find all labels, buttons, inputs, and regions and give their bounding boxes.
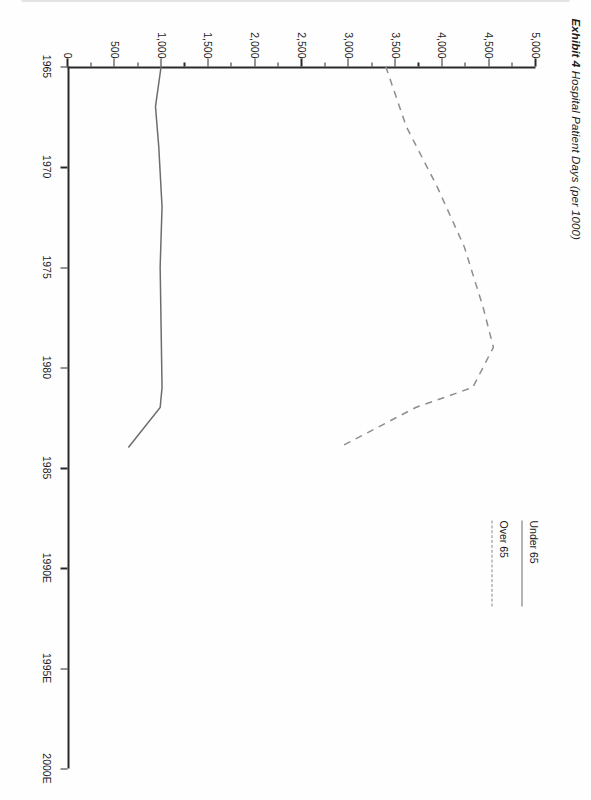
- y-tick-1000: [160, 58, 161, 66]
- x-tick-2000E: [60, 768, 67, 769]
- x-tick-1970: [60, 166, 67, 167]
- y-tick-1500: [207, 58, 208, 66]
- y-tick-2250: [277, 62, 278, 67]
- y-tick-label-3,500: 3,500: [389, 32, 401, 58]
- page-title: Exhibit 4 Hospital Patient Days (per 100…: [569, 18, 581, 240]
- x-tick-label-2000E: 2000E: [40, 753, 52, 783]
- y-tick-label-0: 0: [61, 52, 73, 58]
- series-lines: [67, 66, 535, 768]
- y-tick-label-4,500: 4,500: [482, 32, 494, 58]
- x-tick-1980: [60, 367, 67, 368]
- x-tick-1990E: [60, 567, 67, 568]
- y-tick-500: [113, 58, 114, 66]
- y-tick-3000: [347, 58, 348, 66]
- x-tick-label-1995E: 1995E: [40, 653, 52, 683]
- y-tick-3250: [371, 62, 372, 67]
- page-edge-rule: [21, 0, 569, 1]
- scanned-page: Exhibit 4 Hospital Patient Days (per 100…: [0, 0, 591, 800]
- x-tick-label-1980: 1980: [40, 355, 52, 378]
- plot-area: 196519701975198019851990E1995E2000E 0500…: [67, 66, 535, 768]
- y-tick-label-500: 500: [108, 40, 120, 58]
- x-tick-label-1975: 1975: [40, 255, 52, 278]
- y-tick-4000: [441, 58, 442, 66]
- y-tick-3500: [394, 58, 395, 66]
- y-tick-3750: [417, 62, 418, 67]
- x-tick-label-1965: 1965: [40, 54, 52, 77]
- chart-stage: Exhibit 4 Hospital Patient Days (per 100…: [0, 0, 591, 800]
- x-tick-1985: [60, 467, 67, 468]
- y-tick-label-1,500: 1,500: [201, 32, 213, 58]
- y-tick-label-2,500: 2,500: [295, 32, 307, 58]
- x-tick-1975: [60, 267, 67, 268]
- y-tick-250: [90, 62, 91, 67]
- y-tick-2000: [254, 58, 255, 66]
- y-tick-label-1,000: 1,000: [155, 32, 167, 58]
- y-tick-4500: [488, 58, 489, 66]
- y-tick-2500: [300, 58, 301, 66]
- x-tick-label-1985: 1985: [40, 455, 52, 478]
- y-tick-4750: [511, 62, 512, 67]
- x-tick-1995E: [60, 668, 67, 669]
- y-tick-2750: [324, 62, 325, 67]
- y-tick-0: [66, 58, 67, 66]
- y-tick-1250: [183, 62, 184, 67]
- y-tick-label-2,000: 2,000: [248, 32, 260, 58]
- y-tick-label-4,000: 4,000: [435, 32, 447, 58]
- chart-title-text: Hospital Patient Days (per 1000): [569, 70, 581, 239]
- y-tick-label-3,000: 3,000: [342, 32, 354, 58]
- x-tick-label-1970: 1970: [40, 155, 52, 178]
- exhibit-label: Exhibit 4: [569, 18, 581, 67]
- y-tick-label-5,000: 5,000: [529, 32, 541, 58]
- y-tick-5000: [534, 58, 535, 66]
- y-tick-1750: [230, 62, 231, 67]
- series-line-over-65: [338, 66, 492, 447]
- y-tick-4250: [464, 62, 465, 67]
- series-line-under-65: [128, 66, 162, 447]
- y-tick-750: [137, 62, 138, 67]
- x-tick-label-1990E: 1990E: [40, 552, 52, 582]
